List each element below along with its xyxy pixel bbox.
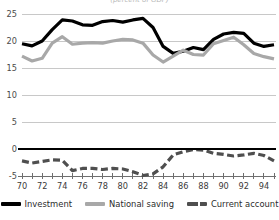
legend-label-investment: Investment [25,199,72,209]
chart-container: (percent of GDP) 2520151050-5 7072747678… [0,0,279,220]
y-tick-label: -5 [9,171,17,181]
x-tick-label: 86 [178,181,188,191]
x-tick-label: 90 [218,181,228,191]
chart-legend: Investment National saving Current accou… [0,196,279,212]
x-tick-label: 70 [17,181,27,191]
legend-swatch-investment [1,202,21,206]
y-axis-tick-labels: 2520151050-5 [7,9,17,181]
legend-item-current-account: Current account [187,199,278,209]
x-tick-label: 76 [77,181,87,191]
x-tick-label: 94 [259,181,269,191]
data-series [22,18,274,175]
plot-area: 2520151050-5 70727476788082848688909294 [0,0,279,196]
x-tick-label: 88 [198,181,208,191]
y-tick-label: 25 [7,9,17,19]
y-tick-label: 20 [7,36,17,46]
legend-swatch-current-account [187,202,207,206]
x-axis-tick-labels: 70727476788082848688909294 [17,181,269,191]
x-tick-label: 92 [239,181,249,191]
legend-label-national-saving: National saving [109,199,174,209]
x-tick-label: 82 [138,181,148,191]
x-tick-label: 72 [37,181,47,191]
x-tick-label: 84 [158,181,168,191]
x-tick-label: 74 [57,181,67,191]
x-tick-label: 78 [97,181,107,191]
y-tick-label: 5 [12,117,17,127]
y-tick-label: 15 [7,63,17,73]
legend-label-current-account: Current account [211,199,278,209]
legend-swatch-national-saving [85,202,105,206]
legend-item-national-saving: National saving [85,199,174,209]
y-tick-label: 0 [12,144,17,154]
legend-item-investment: Investment [1,199,72,209]
y-tick-label: 10 [7,90,17,100]
series-line-current-account [22,150,274,176]
x-tick-label: 80 [118,181,128,191]
series-line-national-saving [22,37,274,62]
